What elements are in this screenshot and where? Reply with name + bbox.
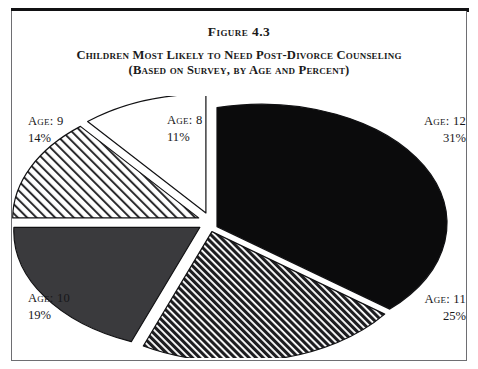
pie-label-age-8-percent: 11% [167, 129, 203, 146]
figure-title-line-1: Children Most Likely to Need Post-Divorc… [12, 48, 466, 63]
pie-label-age-9-age: Age: 9 [28, 113, 64, 130]
pie-label-age-11: Age: 11 25% [390, 291, 466, 324]
pie-label-age-12-percent: 31% [390, 130, 466, 147]
pie-label-age-8: Age: 8 11% [167, 112, 203, 145]
pie-label-age-9-percent: 14% [28, 130, 64, 147]
figure-container: Figure 4.3 Children Most Likely to Need … [0, 0, 478, 369]
page-title: Children Most Likely to Need Post-Divorc… [12, 48, 466, 77]
pie-chart: Age: 9 14% Age: 8 11% Age: 12 31% Age: 1… [12, 96, 466, 358]
pie-label-age-10-age: Age: 10 [28, 290, 70, 307]
figure-title-line-2: (Based on Survey, by Age and Percent) [12, 63, 466, 78]
pie-label-age-9: Age: 9 14% [28, 113, 64, 146]
figure-header: Figure 4.3 Children Most Likely to Need … [12, 24, 466, 77]
figure-number: Figure 4.3 [12, 24, 466, 39]
pie-label-age-12: Age: 12 31% [390, 113, 466, 146]
pie-label-age-11-percent: 25% [390, 308, 466, 325]
pie-label-age-10-percent: 19% [28, 307, 70, 324]
pie-label-age-8-age: Age: 8 [167, 112, 203, 129]
pie-label-age-10: Age: 10 19% [28, 290, 70, 323]
pie-label-age-12-age: Age: 12 [390, 113, 466, 130]
pie-label-age-11-age: Age: 11 [390, 291, 466, 308]
